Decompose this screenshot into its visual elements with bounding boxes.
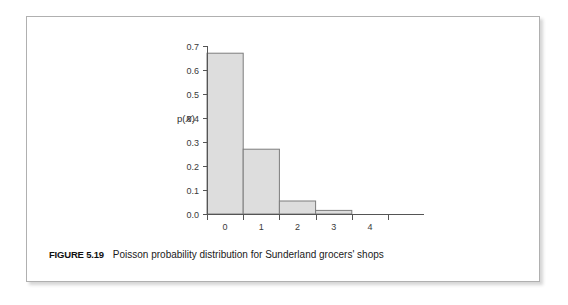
x-tick-label: 3 <box>331 222 336 232</box>
figure-number-label: FIGURE 5.19 <box>49 249 104 260</box>
x-axis-ticks: 0 1 2 3 4 <box>208 215 389 233</box>
bar-x3 <box>316 210 352 214</box>
y-tick-label: 0.7 <box>186 42 199 52</box>
y-tick-label: 0.0 <box>186 210 199 220</box>
y-axis-title-variable: X <box>184 113 192 124</box>
y-tick-label: 0.6 <box>186 66 199 76</box>
y-tick-label: 0.5 <box>186 90 199 100</box>
y-axis-ticks: 0.0 0.1 0.2 0.3 0.4 0.5 0.6 0.7 <box>186 42 207 220</box>
figure-page-card: 0.0 0.1 0.2 0.3 0.4 0.5 0.6 0.7 <box>26 16 540 282</box>
bar-series <box>207 53 352 214</box>
bar-x2 <box>279 201 315 214</box>
figure-caption-text: Poisson probability distribution for Sun… <box>113 249 384 260</box>
x-tick-label: 1 <box>259 222 264 232</box>
x-tick-label: 2 <box>295 222 300 232</box>
y-tick-label: 0.3 <box>186 138 199 148</box>
figure-caption: FIGURE 5.19 Poisson probability distribu… <box>49 249 519 260</box>
y-tick-label: 0.2 <box>186 162 199 172</box>
y-tick-label: 0.1 <box>186 186 199 196</box>
x-tick-label: 4 <box>367 222 372 232</box>
chart-svg: 0.0 0.1 0.2 0.3 0.4 0.5 0.6 0.7 <box>27 17 541 232</box>
poisson-bar-chart: 0.0 0.1 0.2 0.3 0.4 0.5 0.6 0.7 <box>27 17 541 232</box>
bar-x0 <box>207 53 243 214</box>
y-axis-title: p(X) <box>177 113 195 124</box>
x-tick-label: 0 <box>223 222 228 232</box>
bar-x1 <box>243 149 279 214</box>
